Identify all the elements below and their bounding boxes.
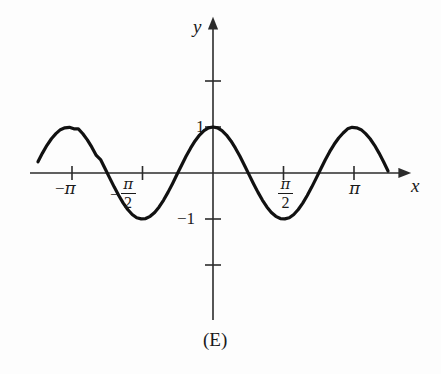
y-tick-label-neg-one: −1: [177, 210, 195, 227]
x-tick-label-neg-pi: −π: [55, 180, 76, 197]
fraction-numerator: π: [279, 177, 293, 193]
minus-sign: −: [55, 179, 65, 198]
y-tick-label-one: 1: [196, 118, 205, 135]
x-tick-label-pi-over-2: π 2: [277, 178, 293, 213]
x-tick-label-neg-pi-over-2: − π 2: [110, 178, 136, 213]
fraction-denominator: 2: [280, 194, 292, 212]
figure-canvas: y x −π − π 2 π 2 π 1 −1: [0, 0, 441, 374]
pi-symbol: π: [349, 178, 360, 198]
x-axis-label: x: [411, 176, 419, 195]
figure-caption: (E): [203, 330, 227, 349]
x-tick-label-pi: π: [349, 180, 360, 197]
fraction-denominator: 2: [122, 194, 134, 212]
pi-symbol: π: [65, 178, 76, 198]
fraction-pi-over-2: π 2: [121, 177, 136, 212]
fraction-numerator: π: [121, 177, 135, 193]
fraction-pi-over-2: π 2: [278, 177, 293, 212]
minus-sign: −: [110, 186, 120, 203]
y-axis-label: y: [193, 17, 201, 36]
